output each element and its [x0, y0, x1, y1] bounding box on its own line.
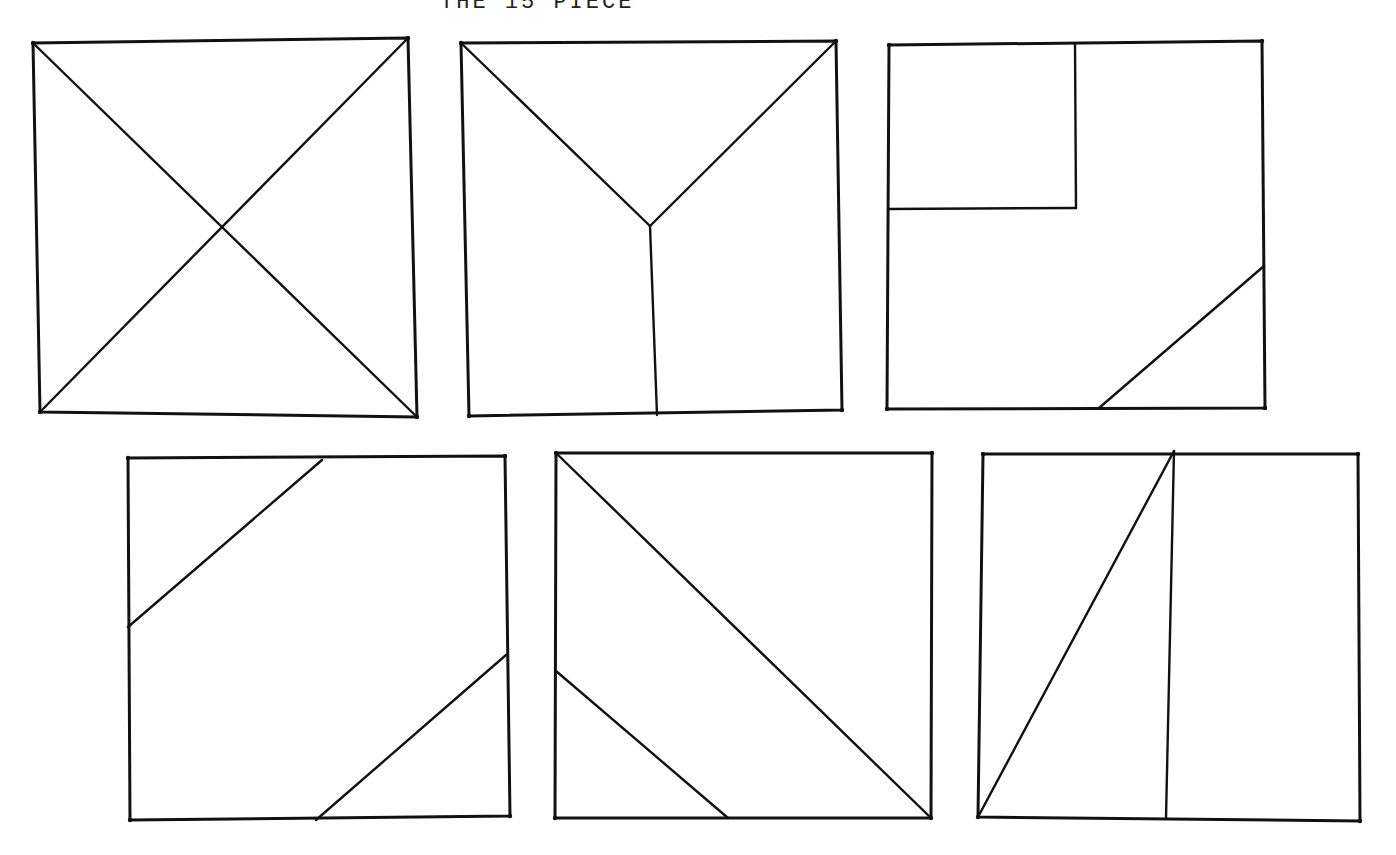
- cut-line: [650, 41, 836, 226]
- cut-line: [978, 451, 1174, 817]
- vertex-dot: [840, 408, 844, 412]
- vertex-dot: [126, 456, 130, 460]
- cut-line: [316, 655, 506, 820]
- cut-line: [461, 43, 650, 226]
- vertex-dot: [1356, 452, 1360, 456]
- vertex-dot: [508, 814, 512, 818]
- vertex-dot: [503, 454, 507, 458]
- vertex-dot: [38, 410, 42, 414]
- square-5-diagonal-and-parallel: [553, 451, 934, 820]
- vertex-dot: [31, 41, 35, 45]
- vertex-dot: [554, 451, 558, 455]
- square-2-y: [459, 39, 844, 418]
- square-1-x: [31, 36, 419, 419]
- vertex-dot: [834, 39, 838, 43]
- vertex-dot: [128, 818, 132, 822]
- cut-line: [556, 671, 728, 818]
- vertex-dot: [976, 815, 980, 819]
- vertex-dot: [1358, 819, 1362, 823]
- vertex-dot: [1260, 39, 1264, 43]
- vertex-dot: [415, 415, 419, 419]
- vertex-dot: [981, 452, 985, 456]
- cut-line: [888, 208, 1076, 209]
- vertex-dot: [887, 43, 891, 47]
- vertex-dot: [885, 407, 889, 411]
- square-outline: [128, 456, 510, 820]
- dissection-diagram: [0, 0, 1396, 855]
- cut-line: [1075, 44, 1076, 208]
- vertex-dot: [459, 41, 463, 45]
- cut-line: [650, 226, 657, 415]
- square-4-two-diagonals: [126, 454, 512, 822]
- cut-line: [128, 460, 322, 627]
- square-3-corner-rect: [885, 39, 1267, 411]
- vertex-dot: [929, 816, 933, 820]
- cut-line: [1099, 266, 1264, 408]
- vertex-dot: [1263, 406, 1267, 410]
- vertex-dot: [406, 36, 410, 40]
- vertex-dot: [553, 816, 557, 820]
- vertex-dot: [467, 414, 471, 418]
- vertex-dot: [930, 451, 934, 455]
- cut-line: [1166, 451, 1174, 818]
- square-6-split-triangle: [976, 451, 1362, 823]
- cut-line: [556, 453, 931, 818]
